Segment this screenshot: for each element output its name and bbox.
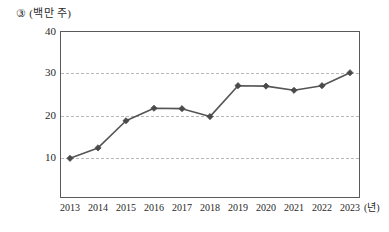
gridline-20 — [61, 116, 359, 117]
x-unit-label: (년) — [364, 203, 380, 213]
gridline-30 — [61, 73, 359, 74]
item-number-label: ③ — [16, 7, 26, 20]
y-tick-label-40: 40 — [16, 26, 56, 37]
y-tick-label-10: 10 — [16, 152, 56, 163]
y-tick-label-20: 20 — [16, 110, 56, 121]
y-tick-label-30: 30 — [16, 67, 56, 78]
chart-unit-caption: ③(백만 주) — [16, 4, 71, 20]
y-unit-label: (백만 주) — [29, 7, 71, 19]
plot-area — [60, 31, 360, 198]
chart-figure: ③(백만 주) 40 30 20 10 2013 2014 2015 2016 … — [0, 0, 389, 232]
gridline-10 — [61, 158, 359, 159]
